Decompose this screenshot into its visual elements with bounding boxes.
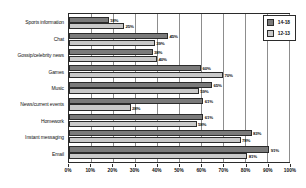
bar-rows: 18%25%45%39%38%40%60%70%65%59%61%28%61%5… xyxy=(69,14,289,162)
bar xyxy=(69,130,252,136)
x-tick xyxy=(112,164,113,167)
bar-value-label: 18% xyxy=(110,17,118,22)
bar-value-label: 83% xyxy=(253,131,261,136)
bar xyxy=(69,146,269,152)
bar xyxy=(69,121,197,127)
category-label: Email xyxy=(0,147,66,161)
bar-value-label: 45% xyxy=(170,33,178,38)
bar xyxy=(69,72,223,78)
x-tick-label: 30% xyxy=(130,168,140,173)
bar xyxy=(69,98,203,104)
x-tick xyxy=(201,164,202,167)
bar-group: 91%81% xyxy=(69,146,289,160)
bar-value-label: 78% xyxy=(242,137,250,142)
category-label: Chat xyxy=(0,31,66,45)
x-tick xyxy=(157,164,158,167)
category-label: Instant messaging xyxy=(0,130,66,144)
bar-track: 38% xyxy=(69,49,289,55)
plot-area: 18%25%45%39%38%40%60%70%65%59%61%28%61%5… xyxy=(68,13,290,163)
bar xyxy=(69,40,155,46)
x-tick-label: 0% xyxy=(65,168,72,173)
bar xyxy=(69,65,201,71)
bar-track: 59% xyxy=(69,88,289,94)
x-tick xyxy=(290,164,291,167)
bar xyxy=(69,49,153,55)
bar xyxy=(69,56,157,62)
bar-value-label: 59% xyxy=(200,89,208,94)
bar-track: 39% xyxy=(69,40,289,46)
x-tick-label: 60% xyxy=(196,168,206,173)
bar-group: 18%25% xyxy=(69,16,289,30)
bar xyxy=(69,23,124,29)
bar-track: 78% xyxy=(69,137,289,143)
x-tick xyxy=(90,164,91,167)
legend-swatch xyxy=(267,19,274,26)
legend: 14-1812-13 xyxy=(263,15,296,41)
x-tick xyxy=(135,164,136,167)
bar-group: 61%58% xyxy=(69,113,289,127)
bar-value-label: 91% xyxy=(271,147,279,152)
category-label: News/current events xyxy=(0,97,66,111)
bar-track: 60% xyxy=(69,65,289,71)
bar-value-label: 38% xyxy=(154,50,162,55)
bar-track: 70% xyxy=(69,72,289,78)
bar-group: 45%39% xyxy=(69,32,289,46)
bar-group: 38%40% xyxy=(69,48,289,62)
bar xyxy=(69,82,212,88)
legend-swatch xyxy=(267,30,274,37)
category-label: Homework xyxy=(0,114,66,128)
bar-value-label: 60% xyxy=(203,66,211,71)
x-tick xyxy=(246,164,247,167)
bar-track: 81% xyxy=(69,153,289,159)
bar-track: 25% xyxy=(69,23,289,29)
bar-track: 28% xyxy=(69,104,289,110)
category-label: Games xyxy=(0,64,66,78)
category-label: Gossip/celebrity news xyxy=(0,48,66,62)
x-tick xyxy=(268,164,269,167)
bar-value-label: 65% xyxy=(214,82,222,87)
legend-item[interactable]: 14-18 xyxy=(267,19,290,26)
bar-group: 65%59% xyxy=(69,81,289,95)
bar-value-label: 58% xyxy=(198,121,206,126)
x-tick-label: 10% xyxy=(85,168,95,173)
legend-label: 14-18 xyxy=(278,20,290,25)
bar xyxy=(69,153,247,159)
legend-item[interactable]: 12-13 xyxy=(267,30,290,37)
bar-value-label: 61% xyxy=(205,98,213,103)
bar-value-label: 61% xyxy=(205,115,213,120)
bar xyxy=(69,17,109,23)
bar-track: 58% xyxy=(69,121,289,127)
category-axis-labels: Sports informationChatGossip/celebrity n… xyxy=(0,13,66,163)
bar-track: 91% xyxy=(69,146,289,152)
bar-group: 83%78% xyxy=(69,129,289,143)
bar-chart: Sports informationChatGossip/celebrity n… xyxy=(0,0,306,188)
category-label: Music xyxy=(0,81,66,95)
bar-value-label: 81% xyxy=(249,154,257,159)
bar-track: 83% xyxy=(69,130,289,136)
legend-label: 12-13 xyxy=(278,31,290,36)
bar-track: 61% xyxy=(69,98,289,104)
category-label: Sports information xyxy=(0,15,66,29)
x-tick-label: 70% xyxy=(219,168,229,173)
x-tick-label: 90% xyxy=(263,168,273,173)
bar xyxy=(69,104,131,110)
bar xyxy=(69,114,203,120)
x-tick-label: 20% xyxy=(108,168,118,173)
bar-value-label: 25% xyxy=(126,24,134,29)
bar-group: 60%70% xyxy=(69,65,289,79)
x-tick xyxy=(223,164,224,167)
bar-group: 61%28% xyxy=(69,97,289,111)
bar xyxy=(69,33,168,39)
bar-track: 61% xyxy=(69,114,289,120)
bar xyxy=(69,137,241,143)
bar-value-label: 70% xyxy=(225,73,233,78)
bar-track: 45% xyxy=(69,33,289,39)
x-axis: 0%10%20%30%40%50%60%70%80%90%100% xyxy=(68,164,290,178)
x-tick-label: 40% xyxy=(152,168,162,173)
bar-track: 40% xyxy=(69,56,289,62)
bar-value-label: 28% xyxy=(132,105,140,110)
bar-track: 18% xyxy=(69,17,289,23)
x-tick-label: 80% xyxy=(241,168,251,173)
x-tick xyxy=(68,164,69,167)
x-tick-label: 100% xyxy=(284,168,296,173)
